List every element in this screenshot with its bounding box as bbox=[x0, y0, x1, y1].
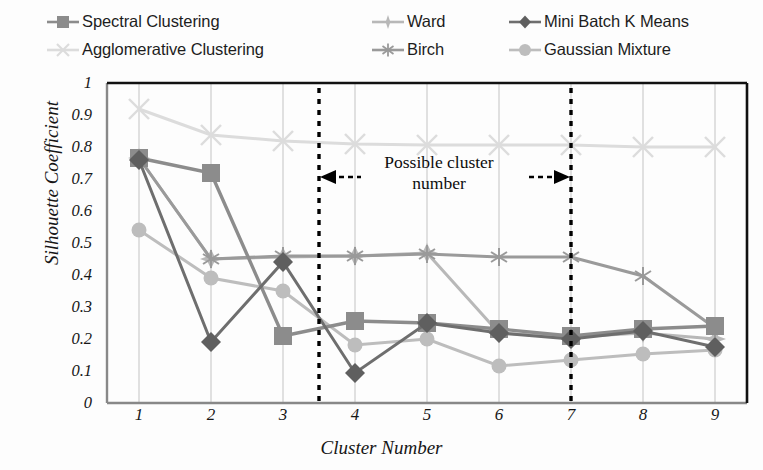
chart-figure: Spectral Clustering Agglomerative Cluste… bbox=[0, 0, 763, 470]
plot-area bbox=[0, 0, 763, 470]
annotation-line-2: number bbox=[331, 173, 547, 194]
x-tick-label: 1 bbox=[119, 405, 159, 425]
x-tick-label: 8 bbox=[623, 405, 663, 425]
x-tick-label: 3 bbox=[263, 405, 303, 425]
annotation-label-possible-cluster-number: Possible cluster number bbox=[331, 152, 547, 193]
x-tick-label: 9 bbox=[695, 405, 735, 425]
x-axis-tick-labels: 1 2 3 4 5 6 7 8 9 bbox=[0, 405, 763, 435]
x-tick-label: 5 bbox=[407, 405, 447, 425]
x-axis-title: Cluster Number bbox=[0, 437, 763, 459]
x-tick-label: 4 bbox=[335, 405, 375, 425]
x-tick-label: 6 bbox=[479, 405, 519, 425]
x-tick-label: 7 bbox=[551, 405, 591, 425]
x-tick-label: 2 bbox=[191, 405, 231, 425]
annotation-line-1: Possible cluster bbox=[331, 152, 547, 173]
